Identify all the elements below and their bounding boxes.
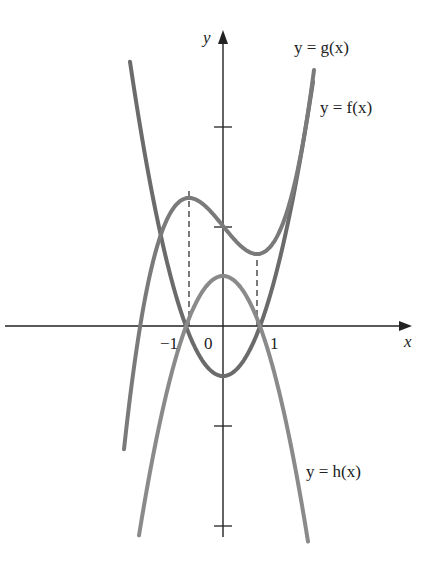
x-axis-arrow-icon — [399, 321, 412, 331]
y-axis-arrow-icon — [218, 30, 228, 44]
label-g: y = g(x) — [294, 38, 349, 58]
x-axis-label: x — [404, 332, 412, 352]
label-f: y = f(x) — [320, 98, 372, 118]
function-graph — [0, 0, 438, 572]
tick-label-zero: 0 — [204, 334, 213, 354]
tick-label-neg-one: −1 — [160, 334, 178, 354]
tick-label-one: 1 — [270, 334, 279, 354]
y-axis-label: y — [203, 28, 211, 48]
label-h: y = h(x) — [306, 462, 361, 482]
